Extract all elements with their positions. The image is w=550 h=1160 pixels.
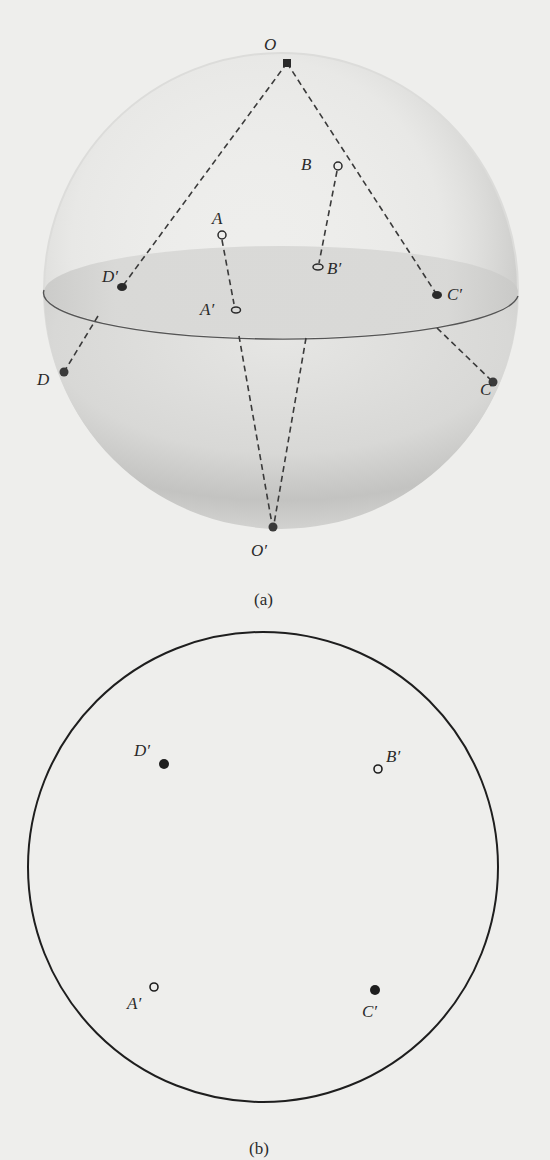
caption-a: (a) [254,590,273,609]
projected-point-B-prime [374,765,382,773]
label-C: C [480,380,492,399]
point-D-prime [117,283,127,291]
projected-point-C-prime [370,985,380,995]
label-D: D [36,370,50,389]
point-C-prime [432,291,442,299]
label-b-D-prime: D′ [133,741,150,760]
projected-point-A-prime [150,983,158,991]
label-O-prime: O′ [251,541,267,560]
label-B-prime: B′ [327,259,341,278]
caption-b: (b) [249,1139,269,1158]
label-D-prime: D′ [101,267,118,286]
label-C-prime: C′ [447,285,462,304]
figure-a-sphere: O O′ D C D′ C′ A A′ B B′ (a) [36,35,518,609]
stereographic-projection-figure: O O′ D C D′ C′ A A′ B B′ (a) D′ B′ A′ C′… [0,0,550,1160]
point-O [283,59,291,67]
label-A-prime: A′ [199,300,214,319]
label-O: O [264,35,276,54]
figure-b-projection: D′ B′ A′ C′ (b) [28,632,498,1158]
point-O-prime [269,523,278,532]
label-b-C-prime: C′ [362,1002,377,1021]
point-D [60,368,69,377]
primitive-circle [28,632,498,1102]
projected-point-D-prime [159,759,169,769]
label-B: B [301,155,312,174]
label-A: A [211,209,223,228]
label-b-A-prime: A′ [126,994,141,1013]
label-b-B-prime: B′ [386,747,400,766]
